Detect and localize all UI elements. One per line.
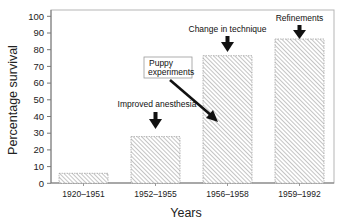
bar-1959-1992	[275, 39, 324, 183]
y-ticks	[47, 16, 51, 183]
svg-text:100: 100	[28, 11, 44, 22]
svg-text:20: 20	[33, 144, 44, 155]
bar-chart: 0 10 20 30 40 50 60 70 80 90 100 Percent…	[0, 0, 341, 221]
svg-text:60: 60	[33, 77, 44, 88]
annotation-improved-anesthesia: Improved anesthesia	[118, 99, 197, 109]
y-tick-labels: 0 10 20 30 40 50 60 70 80 90 100	[28, 11, 44, 189]
svg-text:experiments: experiments	[148, 67, 194, 77]
svg-text:1952–1955: 1952–1955	[134, 189, 177, 199]
svg-text:10: 10	[33, 161, 44, 172]
svg-text:0: 0	[39, 178, 44, 189]
annotation-change-in-technique: Change in technique	[189, 24, 267, 34]
svg-text:1920–1951: 1920–1951	[62, 189, 105, 199]
svg-text:1956–1958: 1956–1958	[206, 189, 249, 199]
arrow-down-icon	[149, 112, 162, 129]
y-axis-title: Percentage survival	[6, 45, 20, 155]
svg-text:50: 50	[33, 94, 44, 105]
x-axis-title: Years	[170, 206, 202, 220]
bar-1956-1958	[203, 56, 252, 184]
x-tick-labels: 1920–1951 1952–1955 1956–1958 1959–1992	[62, 189, 321, 199]
svg-text:70: 70	[33, 61, 44, 72]
bar-1952-1955	[131, 137, 180, 184]
svg-text:80: 80	[33, 44, 44, 55]
arrow-down-icon	[221, 36, 234, 52]
svg-text:30: 30	[33, 127, 44, 138]
annotation-refinements: Refinements	[276, 13, 324, 23]
annotation-puppy-experiments: Puppy experiments	[144, 57, 194, 78]
svg-text:1959–1992: 1959–1992	[278, 189, 321, 199]
svg-text:40: 40	[33, 111, 44, 122]
arrow-down-icon	[293, 25, 306, 39]
bar-1920-1951	[59, 173, 108, 183]
svg-text:90: 90	[33, 27, 44, 38]
